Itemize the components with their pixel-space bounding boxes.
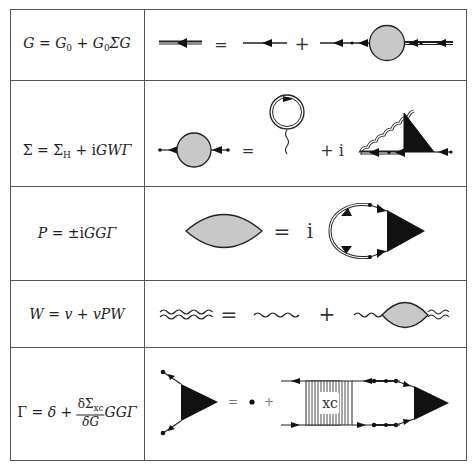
dyson-plus-sign: + <box>294 33 309 54</box>
xc-kernel-label: xc <box>322 395 338 411</box>
self-energy-plus-i: + i <box>320 141 344 160</box>
equation-vertex: Γ = δ + δΣxcδGGGΓ <box>17 398 136 429</box>
self-energy-diagram <box>158 95 452 167</box>
w-plus-sign: + <box>319 302 336 326</box>
full-propagator-line <box>159 38 202 48</box>
bare-propagator-line <box>243 39 287 47</box>
functional-derivative-fraction: δΣxcδG <box>77 398 105 429</box>
vertex-plus-sign: + <box>264 395 274 409</box>
vertex-diagram <box>161 370 449 436</box>
vertex-equals-sign: = <box>228 395 238 409</box>
screened-interaction-diagram <box>160 303 449 328</box>
hartree-tadpole <box>270 95 304 154</box>
vertex-lhs <box>161 370 218 436</box>
sigma-blob <box>158 133 230 167</box>
self-energy-equals-sign: = <box>242 142 255 160</box>
dyson-equals-sign: = <box>214 35 227 54</box>
polarization-diagram <box>186 203 425 259</box>
v-single-wavy <box>254 313 299 317</box>
dyson-hedin-equations-table: G = G0 + G0ΣG Σ = ΣH + iGWΓ P = ±iGGΓ W … <box>0 0 475 471</box>
equation-polarization: P = ±iGGΓ <box>38 225 116 241</box>
equation-dyson: G = G0 + G0ΣG <box>23 35 130 53</box>
polarization-blob <box>186 215 262 248</box>
w-double-wavy <box>160 310 213 319</box>
v-p-w-term <box>354 303 449 328</box>
g0-sigma-g <box>320 26 453 61</box>
xc-kernel-term <box>281 378 449 428</box>
polarization-equals-sign: = <box>274 220 291 244</box>
w-equals-sign: = <box>221 303 238 327</box>
polarization-loop <box>330 203 425 259</box>
equation-screened-interaction: W = v + vPW <box>29 306 124 322</box>
polarization-i-factor: i <box>307 219 313 243</box>
gw-gamma-diagram <box>360 111 453 157</box>
delta-dot <box>249 399 254 404</box>
equation-self-energy: Σ = ΣH + iGWΓ <box>23 142 132 160</box>
